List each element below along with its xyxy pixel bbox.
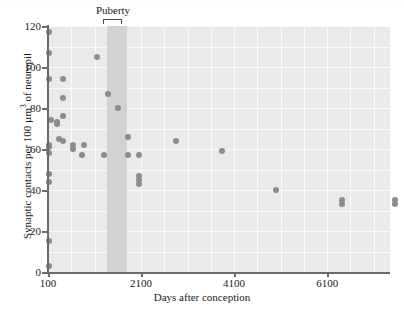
x-axis-tick-label: 6100 — [297, 277, 357, 289]
data-point — [70, 142, 76, 148]
x-axis-tick-label: 2100 — [111, 277, 171, 289]
data-point — [219, 148, 225, 154]
gridline-horizontal — [48, 88, 390, 89]
data-point — [136, 181, 142, 187]
y-axis-tick — [42, 149, 48, 151]
gridline-vertical — [374, 26, 375, 272]
data-point — [54, 121, 60, 127]
gridline-horizontal — [48, 252, 390, 253]
figure-container: Puberty 020406080100120100210041006100 D… — [0, 0, 404, 312]
y-axis-tick — [42, 26, 48, 28]
data-point — [101, 152, 107, 158]
gridline-vertical — [234, 26, 235, 272]
data-point — [339, 201, 345, 207]
page-edge-artifact — [0, 0, 404, 1]
data-point — [94, 54, 100, 60]
gridline-horizontal — [48, 67, 390, 68]
gridline-vertical — [95, 26, 96, 272]
data-point — [60, 95, 66, 101]
gridline-vertical — [281, 26, 282, 272]
x-axis-tick-label: 4100 — [204, 277, 264, 289]
y-axis-title-after: of neuropil — [21, 53, 33, 104]
data-point — [79, 152, 85, 158]
x-axis-title: Days after conception — [0, 291, 404, 303]
data-point — [60, 76, 66, 82]
gridline-vertical — [304, 26, 305, 272]
gridline-vertical — [257, 26, 258, 272]
gridline-vertical — [188, 26, 189, 272]
data-point — [125, 134, 131, 140]
gridline-vertical — [164, 26, 165, 272]
gridline-horizontal — [48, 47, 390, 48]
x-axis-tick-label: 100 — [18, 277, 78, 289]
data-point — [392, 201, 398, 207]
gridline-vertical — [141, 26, 142, 272]
gridline-horizontal — [48, 211, 390, 212]
gridline-horizontal — [48, 190, 390, 191]
y-axis-title: Synaptic contacts per 100 µm3 of neuropi… — [21, 21, 33, 271]
y-axis-title-superscript: 3 — [19, 104, 28, 108]
data-point — [273, 187, 279, 193]
y-axis-tick — [42, 231, 48, 233]
data-point — [125, 152, 131, 158]
plot-panel — [48, 26, 390, 272]
y-axis-tick — [42, 190, 48, 192]
data-point — [60, 138, 66, 144]
gridline-horizontal — [48, 129, 390, 130]
gridline-horizontal — [48, 170, 390, 171]
y-axis-tick — [42, 108, 48, 110]
gridline-vertical — [327, 26, 328, 272]
gridline-vertical — [350, 26, 351, 272]
puberty-shaded-band — [107, 26, 127, 272]
gridline-horizontal — [48, 231, 390, 232]
gridline-vertical — [211, 26, 212, 272]
y-axis-title-before: Synaptic contacts per 100 µm — [21, 108, 33, 239]
puberty-label: Puberty — [83, 4, 143, 16]
data-point — [115, 105, 121, 111]
puberty-bracket — [103, 19, 122, 24]
x-axis-line — [47, 272, 390, 274]
y-axis-tick — [42, 67, 48, 69]
data-point — [60, 113, 66, 119]
gridline-horizontal — [48, 26, 390, 27]
data-point — [81, 142, 87, 148]
data-point — [173, 138, 179, 144]
gridline-horizontal — [48, 108, 390, 109]
